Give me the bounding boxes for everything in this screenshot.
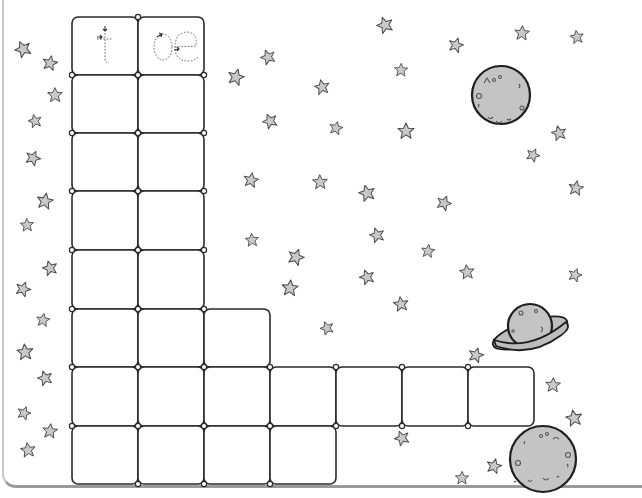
moon-icon <box>472 66 530 124</box>
writing-cell-r7-c3[interactable] <box>204 367 270 426</box>
grid-joint <box>135 188 140 193</box>
star-icon <box>514 25 530 40</box>
writing-cell-r5-c2[interactable] <box>138 250 204 309</box>
star-icon <box>545 377 560 392</box>
star-icon <box>27 113 43 128</box>
writing-cell-r8-c1[interactable] <box>72 426 138 484</box>
writing-cell-r6-c1[interactable] <box>72 309 138 367</box>
star-icon <box>281 279 298 296</box>
writing-cell-r6-c2[interactable] <box>138 309 204 367</box>
star-icon <box>467 346 485 363</box>
star-icon <box>313 78 330 95</box>
star-icon <box>286 247 306 267</box>
grid-joint <box>69 423 74 428</box>
star-icon <box>42 423 58 438</box>
star-icon <box>318 319 335 336</box>
writing-cell-r2-c2[interactable] <box>138 75 204 133</box>
writing-cell-r7-c1[interactable] <box>72 367 138 426</box>
grid-joint <box>69 364 74 369</box>
star-icon <box>16 343 33 360</box>
grid-joint <box>399 423 404 428</box>
star-icon <box>398 123 414 138</box>
star-icon <box>392 428 411 447</box>
writing-cell-r2-c1[interactable] <box>72 75 138 133</box>
grid-joint <box>135 306 140 311</box>
grid-joint <box>201 364 206 369</box>
grid-joint <box>135 14 140 19</box>
star-icon <box>20 218 34 231</box>
star-icon <box>375 15 395 35</box>
star-icon <box>36 192 55 210</box>
star-icon <box>20 442 36 458</box>
writing-cell-r1-c2[interactable] <box>138 17 204 75</box>
writing-cell-r7-c2[interactable] <box>138 367 204 426</box>
grid-joint <box>69 188 74 193</box>
grid-joint <box>267 364 272 369</box>
star-icon <box>328 120 344 135</box>
grid-joint <box>399 364 404 369</box>
star-icon <box>447 36 465 54</box>
grid-joint <box>69 72 74 77</box>
star-icon <box>48 88 63 102</box>
grid-joint <box>135 72 140 77</box>
star-icon <box>36 312 51 326</box>
writing-cell-r8-c2[interactable] <box>138 426 204 484</box>
grid-joint <box>135 247 140 252</box>
writing-cell-r6-c3[interactable] <box>204 309 270 367</box>
grid-joint <box>135 364 140 369</box>
grid-joint <box>333 423 338 428</box>
star-icon <box>568 180 585 196</box>
writing-cell-r7-c5[interactable] <box>336 367 402 426</box>
star-icon <box>455 471 469 484</box>
grid-joint <box>135 481 140 486</box>
grid-joint <box>69 247 74 252</box>
grid-joint <box>201 247 206 252</box>
star-icon <box>368 226 386 244</box>
grid-joint <box>201 481 206 486</box>
star-icon <box>41 54 58 71</box>
grid-joint <box>465 364 470 369</box>
grid-joint <box>465 423 470 428</box>
star-icon <box>550 124 567 141</box>
grid-joint <box>333 364 338 369</box>
star-icon <box>16 405 33 421</box>
writing-cell-r7-c7[interactable] <box>468 367 534 426</box>
writing-cell-r8-c4[interactable] <box>270 426 336 484</box>
star-icon <box>24 148 43 167</box>
writing-cell-r7-c4[interactable] <box>270 367 336 426</box>
star-icon <box>260 111 279 130</box>
star-icon <box>36 369 54 387</box>
star-icon <box>258 47 277 65</box>
writing-cell-r5-c1[interactable] <box>72 250 138 309</box>
writing-cell-r7-c6[interactable] <box>402 367 468 426</box>
star-icon <box>358 268 376 286</box>
star-icon <box>567 267 584 283</box>
star-icon <box>459 264 475 279</box>
grid-joint <box>201 423 206 428</box>
writing-cell-r8-c3[interactable] <box>204 426 270 484</box>
writing-cell-r3-c1[interactable] <box>72 133 138 191</box>
moon-icon <box>510 426 576 492</box>
star-icon <box>14 280 33 298</box>
star-icon <box>226 67 246 86</box>
star-icon <box>393 296 410 312</box>
grid-joint <box>201 72 206 77</box>
star-icon <box>569 29 584 44</box>
grid-joint <box>201 130 206 135</box>
star-icon <box>421 244 436 258</box>
grid-joint <box>135 130 140 135</box>
star-icon <box>312 174 327 188</box>
grid-joint <box>135 423 140 428</box>
star-icon <box>524 146 541 163</box>
star-icon <box>41 259 59 276</box>
writing-cell-r4-c1[interactable] <box>72 191 138 250</box>
writing-grid <box>72 17 534 484</box>
star-icon <box>357 183 377 202</box>
writing-cell-r3-c2[interactable] <box>138 133 204 191</box>
writing-cell-r4-c2[interactable] <box>138 191 204 250</box>
star-icon <box>243 171 260 188</box>
star-icon <box>245 233 259 247</box>
star-icon <box>565 409 584 427</box>
grid-joint <box>267 423 272 428</box>
